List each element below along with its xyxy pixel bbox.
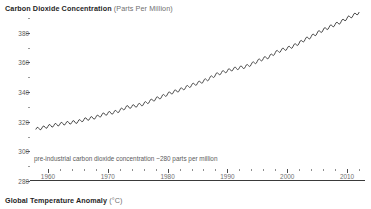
y-tick-label: 380 bbox=[3, 29, 29, 36]
co2-chart-title: Carbon Dioxide Concentration (Parts Per … bbox=[5, 4, 173, 13]
temperature-title-text: Global Temperature Anomaly bbox=[5, 196, 107, 205]
y-tick-label: 360 bbox=[3, 59, 29, 66]
y-tick-label: 340 bbox=[3, 89, 29, 96]
temperature-title-unit: (°C) bbox=[109, 196, 122, 205]
co2-title-unit: (Parts Per Million) bbox=[114, 4, 173, 13]
y-tick-label: 300 bbox=[3, 148, 29, 155]
chart-page: Carbon Dioxide Concentration (Parts Per … bbox=[0, 0, 371, 209]
y-tick-label: 280 bbox=[3, 178, 29, 185]
temperature-plot-area bbox=[30, 206, 365, 209]
co2-curve-path bbox=[36, 12, 359, 129]
co2-title-text: Carbon Dioxide Concentration bbox=[5, 4, 112, 13]
preindustrial-annotation: pre-industrial carbon dioxide concentrat… bbox=[34, 155, 217, 162]
temperature-chart-title: Global Temperature Anomaly (°C) bbox=[5, 196, 122, 205]
y-tick-label: 320 bbox=[3, 118, 29, 125]
